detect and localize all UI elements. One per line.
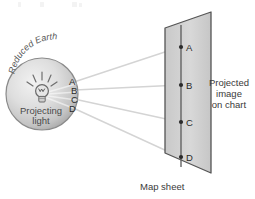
bulb-glass [36, 85, 49, 98]
projected-image-line1: Projected [209, 77, 249, 88]
projected-point-c-dot [179, 120, 183, 124]
projected-label-b: B [186, 80, 192, 91]
projected-point-b-dot [179, 83, 183, 87]
projected-label-d: D [186, 152, 193, 163]
projection-ray-a [74, 47, 180, 82]
projected-image-line2: image [216, 88, 242, 99]
globe-label-d: D [69, 103, 76, 114]
projected-image-line3: on chart [212, 99, 247, 110]
projected-label-c: C [186, 117, 193, 128]
map-sheet-caption: Map sheet [140, 181, 185, 192]
map-sheet-surface [165, 12, 211, 173]
projected-point-d-dot [179, 155, 183, 159]
diagram-canvas: A B C D [0, 0, 255, 199]
map-sheet: A B C D [165, 12, 211, 173]
projected-point-a-dot [179, 45, 183, 49]
projection-ray-b [75, 85, 180, 90]
page-scan-artifact [18, 2, 82, 7]
projecting-light-line2: light [32, 115, 50, 126]
projection-ray-c [74, 99, 180, 122]
projection-diagram: A B C D [0, 0, 255, 199]
reduced-earth-globe: Reduced Earth Projecting light A B C D [6, 31, 78, 130]
projection-ray-d [71, 107, 180, 157]
bulb-base [39, 96, 45, 102]
projected-image-caption: Projected image on chart [209, 77, 249, 110]
map-sheet-label: Map sheet [140, 181, 185, 192]
projection-rays [71, 47, 180, 157]
projected-label-a: A [186, 42, 193, 53]
